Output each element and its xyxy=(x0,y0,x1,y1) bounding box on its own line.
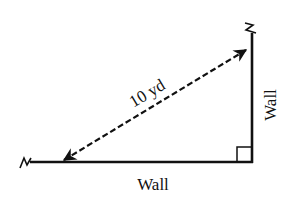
top-break-icon xyxy=(245,23,256,33)
hypotenuse-arrow xyxy=(64,50,246,160)
wall-corner-diagram: 10 yd Wall Wall xyxy=(0,0,292,209)
bottom-wall-label: Wall xyxy=(137,175,169,194)
left-break-icon xyxy=(20,158,31,168)
hypotenuse-label: 10 yd xyxy=(126,75,169,111)
right-angle-marker xyxy=(237,147,252,162)
right-wall-label: Wall xyxy=(261,89,280,121)
